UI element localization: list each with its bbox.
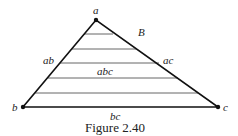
vertex-a: [94, 18, 98, 22]
figure-caption: Figure 2.40: [85, 120, 145, 135]
label-a: a: [93, 4, 99, 16]
label-b: b: [12, 101, 18, 113]
label-ac: ac: [163, 54, 174, 66]
triangle-diagram: a b c ab ac bc abc B Figure 2.40: [0, 0, 238, 136]
vertex-b: [21, 105, 25, 109]
label-ab: ab: [43, 54, 55, 66]
vertex-c: [216, 105, 220, 109]
label-abc: abc: [97, 65, 113, 77]
label-c: c: [223, 101, 228, 113]
label-B: B: [138, 26, 145, 38]
